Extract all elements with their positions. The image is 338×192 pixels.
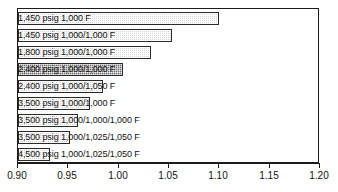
x-axis-tick-label: 1.15 bbox=[259, 170, 278, 181]
x-axis-tick-label: 1.00 bbox=[108, 170, 127, 181]
x-axis-tick-label: 1.10 bbox=[208, 170, 227, 181]
x-axis-tick bbox=[168, 163, 169, 168]
x-axis-tick-label: 0.95 bbox=[57, 170, 76, 181]
bar-chart: 1,450 psig 1,000 F 1,450 psig 1,000/1,00… bbox=[0, 0, 338, 192]
x-axis-tick bbox=[118, 163, 119, 168]
x-axis-tick-label: 1.05 bbox=[158, 170, 177, 181]
x-axis-tick bbox=[218, 163, 219, 168]
plot-area: 1,450 psig 1,000 F 1,450 psig 1,000/1,00… bbox=[17, 8, 319, 163]
x-axis-tick bbox=[67, 163, 68, 168]
x-axis-tick bbox=[269, 163, 270, 168]
x-axis-tick bbox=[319, 163, 320, 168]
x-axis-tick-label: 1.20 bbox=[309, 170, 328, 181]
x-axis-tick bbox=[17, 163, 18, 168]
x-axis-tick-label: 0.90 bbox=[7, 170, 26, 181]
